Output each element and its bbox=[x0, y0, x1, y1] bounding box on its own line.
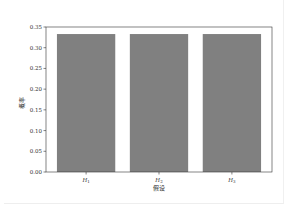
x-tick-label: H3 bbox=[227, 177, 236, 185]
x-tick-label: H2 bbox=[154, 177, 163, 185]
y-tick-label: 0.10 bbox=[30, 128, 43, 134]
y-axis-title: 概率 bbox=[18, 97, 26, 109]
y-tick-label: 0.30 bbox=[30, 45, 43, 51]
bar-h2 bbox=[130, 34, 188, 172]
bar-chart: H1H2H30.000.050.100.150.200.250.300.35假设… bbox=[0, 0, 287, 209]
y-tick-label: 0.05 bbox=[30, 148, 43, 154]
x-tick-label: H1 bbox=[81, 177, 89, 185]
y-tick-label: 0.00 bbox=[30, 169, 43, 175]
x-axis-title: 假设 bbox=[153, 184, 165, 192]
bar-h3 bbox=[203, 34, 261, 172]
bar-h1 bbox=[57, 34, 115, 172]
y-tick-label: 0.15 bbox=[30, 107, 43, 113]
y-tick-label: 0.20 bbox=[30, 86, 43, 92]
y-tick-label: 0.25 bbox=[30, 65, 43, 71]
y-tick-label: 0.35 bbox=[30, 24, 43, 30]
